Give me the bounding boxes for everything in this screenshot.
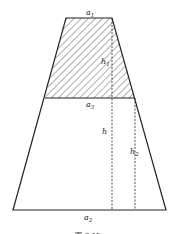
label-a2: a2: [84, 213, 93, 223]
label-a3: a3: [86, 100, 95, 110]
trapezoid-diagram: a1 h1 a3 h h2 a2 图 8-15: [0, 0, 176, 234]
figure-caption: 图 8-15: [75, 232, 100, 234]
label-h: h: [102, 127, 107, 136]
hatched-region: [45, 18, 135, 98]
label-a1: a1: [86, 8, 94, 18]
label-h2: h2: [130, 147, 139, 157]
